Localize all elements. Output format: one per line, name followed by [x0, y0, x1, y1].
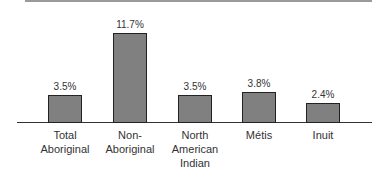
category-label-line: Non-	[95, 128, 165, 142]
bar-non-aboriginal	[113, 33, 147, 123]
bar-chart: 3.5% 11.7% 3.5% 3.8% 2.4% Total Aborigin…	[0, 0, 383, 181]
bar-north-american-indian	[178, 95, 212, 123]
category-label-non-aboriginal: Non- Aboriginal	[95, 128, 165, 156]
category-label-total-aboriginal: Total Aboriginal	[30, 128, 100, 156]
category-label-line: Aboriginal	[95, 142, 165, 156]
value-label-non-aboriginal: 11.7%	[105, 19, 155, 30]
value-label-total-aboriginal: 3.5%	[40, 81, 90, 92]
category-label-line: Aboriginal	[30, 142, 100, 156]
bar-inuit	[306, 103, 340, 123]
category-label-line: Inuit	[288, 128, 358, 142]
category-label-metis: Métis	[224, 128, 294, 142]
value-label-metis: 3.8%	[234, 78, 284, 89]
bar-total-aboriginal	[48, 95, 82, 123]
category-label-line: American	[160, 142, 230, 156]
value-label-inuit: 2.4%	[298, 89, 348, 100]
category-label-line: Métis	[224, 128, 294, 142]
bar-metis	[242, 92, 276, 123]
category-label-inuit: Inuit	[288, 128, 358, 142]
value-label-north-american-indian: 3.5%	[170, 81, 220, 92]
category-label-line: Total	[30, 128, 100, 142]
category-label-line: North	[160, 128, 230, 142]
category-label-north-american-indian: North American Indian	[160, 128, 230, 170]
category-label-line: Indian	[160, 156, 230, 170]
